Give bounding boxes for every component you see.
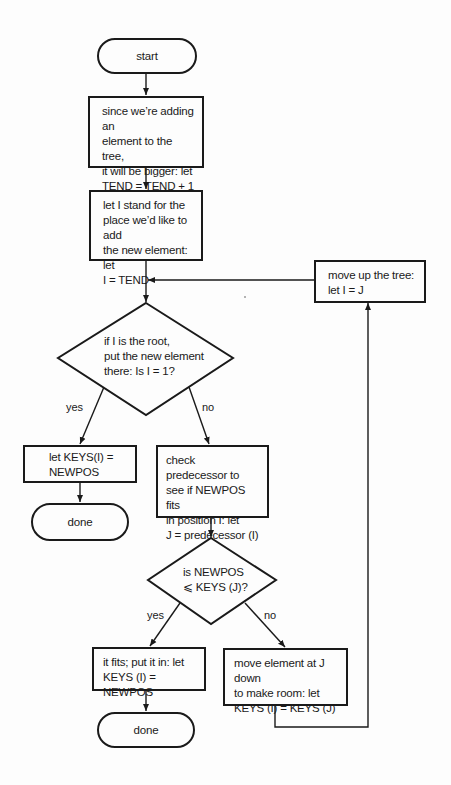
line: let KEYS(I) = <box>49 450 127 465</box>
done-terminal-1: done <box>31 503 129 541</box>
root-yes-label: yes <box>66 401 83 413</box>
line: the new element: let <box>103 243 193 273</box>
line: J = predecessor (I) <box>166 528 259 543</box>
line: move element at J down <box>234 656 338 686</box>
line: let I = J <box>328 283 416 298</box>
line: if I is the root, <box>104 334 214 349</box>
line: I = TEND <box>103 273 193 288</box>
done-label: done <box>134 723 159 738</box>
line: KEYS (I) = KEYS (J) <box>234 701 338 716</box>
line: since we’re adding an <box>102 104 194 134</box>
line: is NEWPOS <box>183 565 253 580</box>
line: move up the tree: <box>328 268 416 283</box>
root-decision-text: if I is the root, put the new element th… <box>104 334 214 379</box>
move-up-box: move up the tree: let I = J <box>314 260 426 303</box>
fit-no-label: no <box>264 609 276 621</box>
start-label: start <box>136 49 157 64</box>
line: let I stand for the <box>103 198 193 213</box>
fit-yes-label: yes <box>147 609 164 621</box>
set-root-box: let KEYS(I) = NEWPOS <box>23 445 137 483</box>
start-terminal: start <box>97 38 197 74</box>
increment-tend-box: since we’re adding an element to the tre… <box>88 96 204 168</box>
line: element to the tree, <box>102 134 194 164</box>
line: it fits; put it in: let <box>103 655 196 670</box>
line: to make room: let <box>234 686 338 701</box>
move-down-box: move element at J down to make room: let… <box>223 648 348 706</box>
done-label: done <box>68 515 93 530</box>
line: it will be bigger: let <box>102 164 194 179</box>
root-no-label: no <box>202 401 214 413</box>
line: there: Is I = 1? <box>104 364 214 379</box>
line: NEWPOS <box>49 465 127 480</box>
line: check predecessor to <box>166 453 259 483</box>
fits-box: it fits; put it in: let KEYS (I) = NEWPO… <box>92 647 206 691</box>
line: ⩽ KEYS (J)? <box>183 580 253 595</box>
line: see if NEWPOS fits <box>166 483 259 513</box>
line: KEYS (I) = NEWPOS <box>103 670 196 700</box>
fit-decision-text: is NEWPOS ⩽ KEYS (J)? <box>183 565 253 595</box>
done-terminal-2: done <box>97 712 195 748</box>
line: place we’d like to add <box>103 213 193 243</box>
line: in position I: let <box>166 513 259 528</box>
check-predecessor-box: check predecessor to see if NEWPOS fits … <box>156 445 269 518</box>
set-i-box: let I stand for the place we’d like to a… <box>89 190 203 261</box>
line: put the new element <box>104 349 214 364</box>
